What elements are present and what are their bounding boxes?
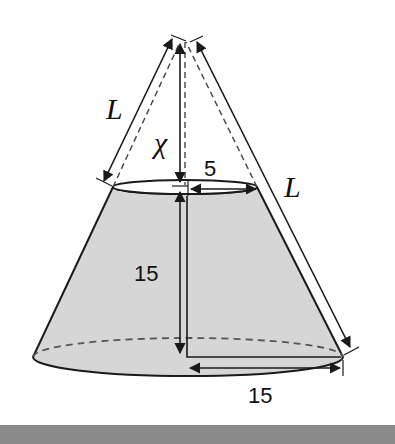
top-radius-label: 5 xyxy=(204,158,216,180)
frustum-body xyxy=(33,187,343,376)
footer-bar xyxy=(0,425,395,444)
apex-height-label: χ xyxy=(154,128,167,158)
apex-dashed-right xyxy=(186,42,257,187)
slant-right-label: L xyxy=(284,172,301,202)
diagram-canvas xyxy=(0,0,395,444)
bottom-radius-label: 15 xyxy=(248,385,272,407)
slant-left-label: L xyxy=(106,94,123,124)
frustum-height-label: 15 xyxy=(134,263,158,285)
apex-dashed-left xyxy=(113,42,180,187)
frustum-diagram: L L χ 5 15 15 xyxy=(0,0,395,444)
